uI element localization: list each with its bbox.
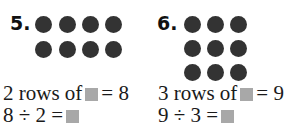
equation-line-2: 8 ÷ 2 =	[3, 104, 82, 126]
dot	[82, 16, 99, 33]
dot	[207, 16, 224, 33]
equation-line-1: 2 rows of= 8	[3, 82, 129, 104]
dot	[230, 40, 247, 57]
dot	[82, 41, 99, 58]
dot	[184, 16, 201, 33]
dot	[207, 64, 224, 81]
answer-blank-box[interactable]	[221, 110, 234, 123]
dot	[184, 40, 201, 57]
dot	[230, 64, 247, 81]
equation-text: 9 ÷ 3 =	[158, 103, 218, 126]
dot	[35, 41, 52, 58]
dot	[207, 40, 224, 57]
dot	[230, 16, 247, 33]
problem-number: 5.	[10, 12, 30, 34]
dot	[184, 64, 201, 81]
equation-line-2: 9 ÷ 3 =	[158, 104, 237, 126]
equation-text: 2 rows of	[3, 81, 82, 105]
problem-number: 6.	[157, 12, 177, 34]
equation-text: 3 rows of	[158, 81, 237, 105]
answer-blank-box[interactable]	[240, 88, 253, 101]
answer-blank-box[interactable]	[85, 88, 98, 101]
dot	[35, 16, 52, 33]
equation-text: = 8	[101, 81, 129, 105]
dot	[105, 41, 122, 58]
equation-text: = 9	[256, 81, 284, 105]
dot	[59, 41, 76, 58]
equation-line-1: 3 rows of= 9	[158, 82, 284, 104]
equation-text: 8 ÷ 2 =	[3, 103, 63, 126]
dot	[105, 16, 122, 33]
dot	[59, 16, 76, 33]
answer-blank-box[interactable]	[66, 110, 79, 123]
